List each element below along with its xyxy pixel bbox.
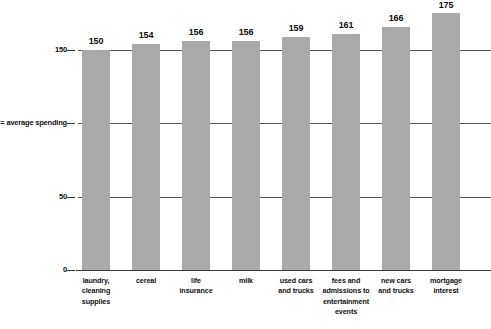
ytick-label-0: 0 (63, 266, 67, 274)
tick-mark-0 (67, 270, 75, 271)
plot-area: 150 100 = average spending 50 0 150 154 … (0, 0, 491, 329)
ytick-label-100: 100 = average spending (0, 119, 67, 127)
bar-value-life-insurance: 156 (176, 28, 216, 37)
bar-life-insurance (182, 41, 210, 270)
category-label-mortgage-interest: mortgageinterest (415, 276, 477, 297)
bar-value-fees-and-admissions: 161 (326, 21, 366, 30)
bar-fees-and-admissions (332, 34, 360, 270)
bar-value-laundry-cleaning-supplies: 150 (76, 37, 116, 46)
bar-laundry-cleaning-supplies (82, 50, 110, 270)
bar-value-milk: 156 (226, 28, 266, 37)
bar-value-new-cars-and-trucks: 166 (376, 14, 416, 23)
bar-used-cars-and-trucks (282, 37, 310, 270)
bar-mortgage-interest (432, 13, 460, 270)
axis-baseline (76, 270, 491, 271)
tick-mark-150 (67, 50, 75, 51)
ytick-label-50: 50 (59, 193, 67, 201)
bar-value-used-cars-and-trucks: 159 (276, 24, 316, 33)
ytick-label-150: 150 (55, 46, 67, 54)
bar-chart: 150 100 = average spending 50 0 150 154 … (0, 0, 491, 329)
bar-cereal (132, 44, 160, 270)
bar-value-cereal: 154 (126, 31, 166, 40)
bar-new-cars-and-trucks (382, 27, 410, 271)
bar-milk (232, 41, 260, 270)
tick-mark-50 (67, 197, 75, 198)
tick-mark-100 (67, 123, 75, 124)
bar-value-mortgage-interest: 175 (426, 1, 466, 10)
